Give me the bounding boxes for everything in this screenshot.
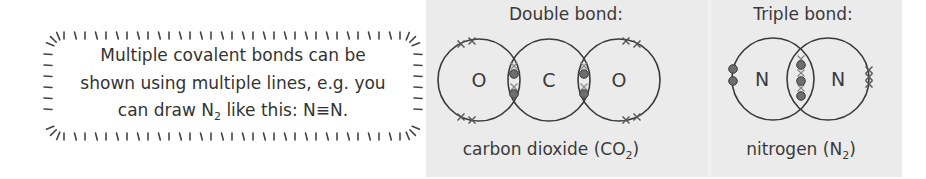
callout-text: Multiple covalent bonds can be shown usi… [42, 42, 424, 125]
co2-diagram: O C O [438, 38, 660, 124]
atom-n-left: N [755, 68, 769, 90]
n2-diagram: N N [729, 38, 873, 120]
atom-o-right: O [612, 69, 627, 91]
n2-caption: nitrogen (N2) [716, 139, 886, 159]
callout-line-1: Multiple covalent bonds can be [42, 42, 424, 70]
atom-c: C [542, 69, 555, 91]
co2-caption: carbon dioxide (CO2) [426, 139, 676, 159]
callout-line-2: shown using multiple lines, e.g. you [42, 70, 424, 98]
bond-diagrams-panel: Double bond: Triple bond: O C O [426, 0, 902, 177]
info-callout: Multiple covalent bonds can be shown usi… [42, 28, 424, 144]
atom-n-right: N [831, 68, 845, 90]
atom-o-left: O [472, 69, 487, 91]
callout-line-3: can draw N2 like this: N≡N. [42, 97, 424, 125]
